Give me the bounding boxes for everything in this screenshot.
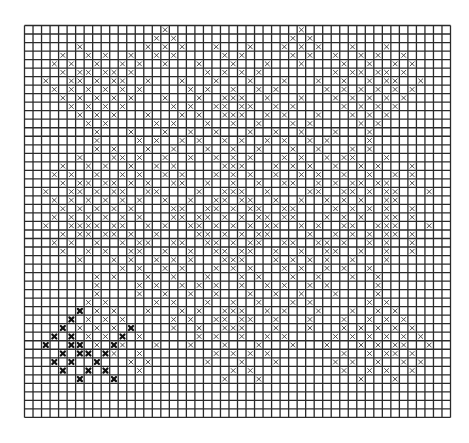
x-mark (214, 283, 218, 287)
x-mark (368, 241, 372, 245)
x-mark (385, 224, 389, 228)
x-mark (308, 138, 312, 142)
x-mark (368, 207, 372, 211)
x-mark (214, 266, 218, 270)
x-mark (299, 156, 303, 160)
x-mark (206, 147, 210, 151)
x-mark (180, 173, 184, 177)
x-mark (52, 215, 56, 219)
x-mark (155, 53, 159, 57)
x-mark (146, 79, 150, 83)
x-mark (308, 300, 312, 304)
x-mark (137, 266, 141, 270)
x-mark (402, 70, 406, 74)
x-mark (44, 190, 48, 194)
x-mark (52, 198, 56, 202)
x-mark (393, 326, 397, 330)
x-mark (376, 87, 380, 91)
x-mark (206, 121, 210, 125)
x-mark (291, 343, 295, 347)
x-mark (333, 70, 337, 74)
x-mark (316, 190, 320, 194)
x-mark (69, 173, 73, 177)
x-mark (299, 173, 303, 177)
x-mark (120, 317, 124, 321)
x-mark (223, 96, 227, 100)
x-mark (240, 258, 244, 262)
x-mark (95, 96, 99, 100)
x-mark (180, 79, 184, 83)
x-mark (240, 232, 244, 236)
x-mark (393, 343, 397, 347)
x-mark (86, 300, 90, 304)
x-mark (402, 343, 406, 347)
x-mark (129, 70, 133, 74)
x-mark (265, 215, 269, 219)
x-mark (393, 377, 397, 381)
x-mark (368, 334, 372, 338)
x-mark (180, 113, 184, 117)
x-mark (146, 147, 150, 151)
x-mark (299, 45, 303, 49)
x-mark (120, 224, 124, 228)
x-mark (95, 309, 99, 313)
x-mark (189, 156, 193, 160)
x-mark (180, 215, 184, 219)
x-mark (265, 283, 269, 287)
x-mark (120, 79, 124, 83)
x-mark (112, 113, 116, 117)
x-mark (112, 156, 116, 160)
x-mark (163, 28, 167, 32)
x-mark (214, 317, 218, 321)
x-mark (95, 207, 99, 211)
x-mark (274, 292, 278, 296)
x-mark (393, 351, 397, 355)
x-mark (274, 360, 278, 364)
x-mark (368, 300, 372, 304)
x-mark (95, 62, 99, 66)
x-mark (95, 79, 99, 83)
x-mark (350, 334, 354, 338)
x-mark (265, 232, 269, 236)
x-mark (172, 275, 176, 279)
x-mark (78, 156, 82, 160)
x-mark (359, 164, 363, 168)
x-mark (274, 326, 278, 330)
x-mark (350, 232, 354, 236)
x-mark (146, 181, 150, 185)
x-mark (95, 147, 99, 151)
x-mark (78, 181, 82, 185)
x-mark (172, 121, 176, 125)
x-mark (385, 215, 389, 219)
x-mark (282, 215, 286, 219)
x-mark (282, 283, 286, 287)
x-mark (172, 207, 176, 211)
x-mark (274, 198, 278, 202)
x-mark (112, 326, 116, 330)
x-mark (368, 232, 372, 236)
x-mark (282, 334, 286, 338)
x-mark (103, 164, 107, 168)
x-mark (393, 224, 397, 228)
x-mark (231, 224, 235, 228)
x-mark (146, 275, 150, 279)
x-mark (78, 45, 82, 49)
x-mark (206, 207, 210, 211)
x-mark (248, 207, 252, 211)
x-mark (274, 258, 278, 262)
x-mark (146, 309, 150, 313)
x-mark (137, 292, 141, 296)
x-mark (376, 283, 380, 287)
x-mark (368, 79, 372, 83)
x-mark (112, 96, 116, 100)
x-mark (385, 96, 389, 100)
x-mark (129, 53, 133, 57)
x-mark (231, 156, 235, 160)
x-mark (385, 232, 389, 236)
x-mark (206, 241, 210, 245)
x-mark (197, 96, 201, 100)
x-mark (350, 224, 354, 228)
x-mark (282, 138, 286, 142)
x-mark (427, 224, 431, 228)
x-mark-dark (78, 377, 82, 381)
